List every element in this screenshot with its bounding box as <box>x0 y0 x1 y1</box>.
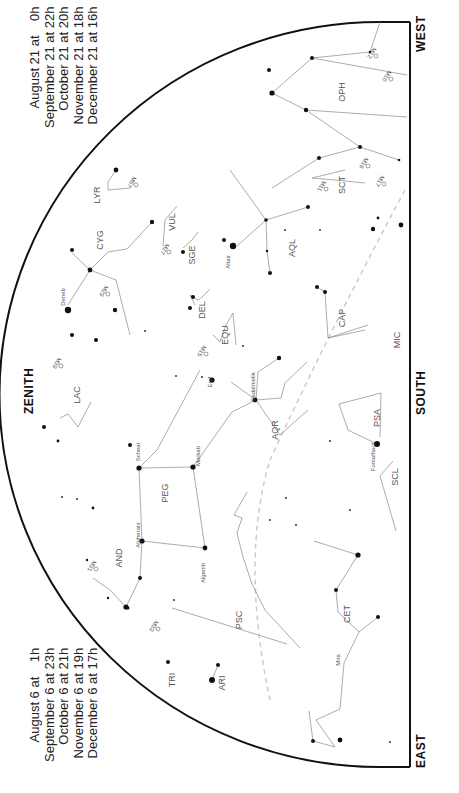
time-line: October 6 at 21h <box>57 648 72 762</box>
constellation-label: AQL <box>287 239 297 257</box>
stars <box>42 51 403 743</box>
constellation-label: CYG <box>95 230 105 250</box>
star-name-labels: AltairDenebSadalmelikFomalhautScheatMark… <box>60 255 376 666</box>
constellation-label: AND <box>114 548 124 568</box>
constellation-label: ARI <box>217 675 227 690</box>
constellation-label: EQU <box>220 325 230 345</box>
constellation-label: MIC <box>392 331 402 348</box>
time-line: November 6 at 19h <box>72 648 87 762</box>
observing-times-top: August 21 at 0h September 21 at 22h Octo… <box>28 7 101 128</box>
time-line: August 6 at 1h <box>28 648 43 762</box>
constellation-label: LYR <box>92 186 102 203</box>
constellation-label: OPH <box>337 82 347 102</box>
direction-east: EAST <box>414 734 428 768</box>
star-name-label: Markab <box>195 445 201 466</box>
time-line: August 21 at 0h <box>28 7 43 128</box>
constellation-label: PSA <box>372 409 382 427</box>
time-line: October 21 at 20h <box>57 7 72 128</box>
constellation-label: TRI <box>167 673 177 688</box>
time-line: November 21 at 18h <box>72 7 87 128</box>
star-name-label: Enif <box>207 377 213 388</box>
star-name-label: Sadalmelik <box>250 371 256 401</box>
star-name-label: Altair <box>225 255 231 269</box>
faint-stars <box>61 229 391 743</box>
constellation-label: SCT <box>337 175 347 194</box>
time-line: September 21 at 22h <box>43 7 58 128</box>
constellation-label: SCL <box>390 468 400 486</box>
constellation-label: PEG <box>160 483 170 502</box>
constellation-label: CAP <box>337 309 347 328</box>
direction-zenith: ZENITH <box>22 368 36 414</box>
constellation-label: LAC <box>72 386 82 404</box>
star-name-label: Mira <box>335 654 341 666</box>
constellation-label: CET <box>342 604 352 623</box>
observing-times-bottom: August 6 at 1h September 6 at 23h Octobe… <box>28 648 101 762</box>
star-name-label: Deneb <box>60 288 66 306</box>
direction-south: SOUTH <box>414 371 428 416</box>
star-name-label: Fomalhaut <box>370 442 376 471</box>
direction-west: WEST <box>414 15 428 52</box>
constellation-label: VUL <box>167 213 177 231</box>
constellation-label: DEL <box>197 301 207 319</box>
constellation-label: SGE <box>187 245 197 264</box>
time-line: September 6 at 23h <box>43 648 58 762</box>
time-line: December 6 at 17h <box>86 648 101 762</box>
constellation-label: AQR <box>270 420 280 440</box>
constellation-label: PSC <box>234 610 244 629</box>
time-line: December 21 at 16h <box>86 7 101 128</box>
star-name-label: Alpheratz <box>135 522 141 547</box>
star-name-label: Scheat <box>135 442 141 461</box>
star-name-label: Algenib <box>200 562 206 583</box>
